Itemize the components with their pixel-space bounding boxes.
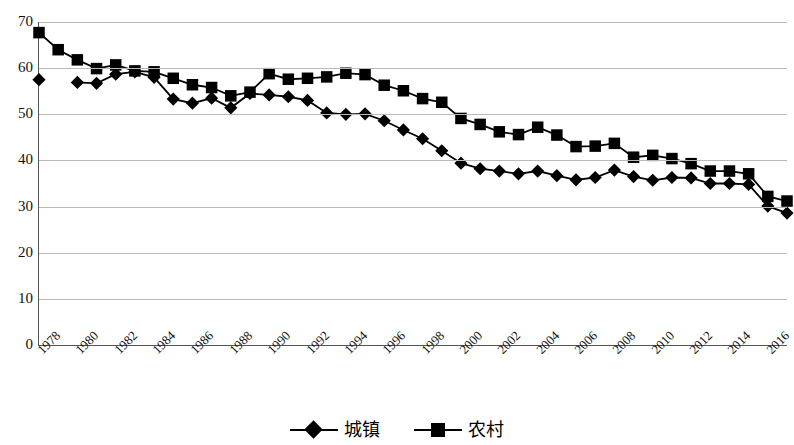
data-point-diamond xyxy=(493,164,506,177)
x-axis-labels: 1978198019821984198619881990199219941996… xyxy=(0,347,794,407)
data-point-diamond xyxy=(646,174,659,187)
series-layer xyxy=(39,22,787,345)
data-point-square xyxy=(513,129,525,141)
diamond-marker-icon xyxy=(290,422,338,438)
gridline xyxy=(39,68,787,69)
data-point-square xyxy=(244,86,256,98)
data-point-diamond xyxy=(263,88,276,101)
data-point-diamond xyxy=(685,171,698,184)
square-marker-icon xyxy=(414,422,462,438)
series-rural xyxy=(33,27,793,207)
gridline xyxy=(39,299,787,300)
data-point-square xyxy=(206,82,218,94)
series-line xyxy=(77,72,787,213)
data-point-square xyxy=(52,44,64,56)
data-point-diamond xyxy=(186,97,199,110)
legend-label-rural: 农村 xyxy=(468,421,504,439)
legend-label-urban: 城镇 xyxy=(344,421,380,439)
data-point-diamond xyxy=(90,77,103,90)
data-point-diamond xyxy=(512,167,525,180)
gridline xyxy=(39,207,787,208)
data-point-square xyxy=(551,129,563,141)
data-point-diamond xyxy=(435,144,448,157)
plot-area: 010203040506070 xyxy=(0,0,794,350)
data-point-diamond xyxy=(301,94,314,107)
data-point-square xyxy=(570,141,582,153)
y-axis-tick-label: 40 xyxy=(3,152,33,167)
data-point-diamond xyxy=(569,173,582,186)
y-axis-tick-label: 70 xyxy=(3,14,33,29)
data-point-diamond xyxy=(665,171,678,184)
data-point-diamond xyxy=(474,162,487,175)
data-point-square xyxy=(302,73,314,85)
data-point-diamond xyxy=(32,73,45,86)
data-point-square xyxy=(340,67,352,79)
data-point-square xyxy=(168,73,180,85)
data-point-square xyxy=(129,65,141,77)
gridline xyxy=(39,253,787,254)
y-axis-labels: 010203040506070 xyxy=(0,0,33,350)
data-point-diamond xyxy=(704,177,717,190)
data-point-diamond xyxy=(397,123,410,136)
data-point-diamond xyxy=(531,164,544,177)
data-point-square xyxy=(283,73,295,85)
data-point-diamond xyxy=(454,157,467,170)
data-point-diamond xyxy=(224,101,237,114)
data-point-square xyxy=(378,79,390,91)
data-point-diamond xyxy=(550,169,563,182)
data-point-square xyxy=(474,119,486,131)
legend-item-rural: 农村 xyxy=(414,421,504,439)
data-point-square xyxy=(589,140,601,152)
data-point-square xyxy=(647,150,659,162)
data-point-square xyxy=(666,153,678,165)
data-point-square xyxy=(398,85,410,97)
chart-legend: 城镇 农村 xyxy=(0,414,794,445)
series-urban xyxy=(32,65,793,219)
gridline xyxy=(39,114,787,115)
data-point-diamond xyxy=(205,92,218,105)
data-point-diamond xyxy=(320,106,333,119)
gridline xyxy=(39,160,787,161)
data-point-square xyxy=(781,195,793,207)
legend-item-urban: 城镇 xyxy=(290,421,380,439)
plot-inner xyxy=(39,22,787,345)
data-point-square xyxy=(724,165,736,177)
data-point-diamond xyxy=(378,114,391,127)
data-point-diamond xyxy=(416,132,429,145)
data-point-square xyxy=(494,126,506,138)
data-point-diamond xyxy=(608,164,621,177)
data-point-diamond xyxy=(589,171,602,184)
data-point-square xyxy=(359,69,371,81)
data-point-diamond xyxy=(723,177,736,190)
data-point-square xyxy=(417,93,429,105)
data-point-square xyxy=(72,54,84,65)
data-point-diamond xyxy=(627,170,640,183)
data-point-square xyxy=(705,165,717,177)
data-point-square xyxy=(33,27,45,39)
data-point-square xyxy=(762,191,774,203)
y-axis-tick-label: 20 xyxy=(3,245,33,260)
data-point-square xyxy=(321,71,333,83)
y-axis-tick-label: 10 xyxy=(3,291,33,306)
data-point-square xyxy=(436,97,448,109)
data-point-square xyxy=(609,138,621,150)
data-point-diamond xyxy=(282,90,295,103)
data-point-square xyxy=(532,121,544,132)
data-point-square xyxy=(743,168,755,180)
data-point-square xyxy=(187,79,199,91)
y-axis-tick-label: 60 xyxy=(3,60,33,75)
data-point-square xyxy=(225,90,237,102)
chart-container: 010203040506070 197819801982198419861988… xyxy=(0,0,794,445)
y-axis-tick-label: 50 xyxy=(3,106,33,121)
gridline xyxy=(39,22,787,23)
data-point-square xyxy=(263,68,275,80)
data-point-diamond xyxy=(780,206,793,219)
y-axis-tick-label: 30 xyxy=(3,199,33,214)
data-point-diamond xyxy=(71,76,84,89)
